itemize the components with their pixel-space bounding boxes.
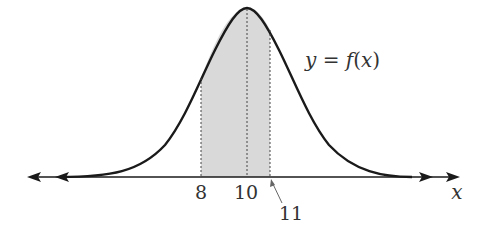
curve-label-arg: x bbox=[361, 48, 372, 72]
axis-label-x: x bbox=[451, 180, 462, 204]
curve-label-open: ( bbox=[353, 48, 361, 72]
tick-label-11: 11 bbox=[279, 202, 303, 224]
curve-label-eq: = bbox=[316, 48, 345, 72]
curve-label: y = f(x) bbox=[304, 48, 380, 72]
curve-label-lhs: y bbox=[304, 48, 317, 72]
tick-label-8: 8 bbox=[195, 181, 207, 203]
tick-label-10: 10 bbox=[234, 181, 258, 203]
curve-label-close: ) bbox=[372, 48, 380, 72]
normal-curve-diagram: 8 10 11 x y = f(x) bbox=[0, 0, 487, 241]
shaded-area bbox=[201, 8, 270, 177]
